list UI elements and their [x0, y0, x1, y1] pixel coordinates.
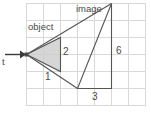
- label-source-point-t: t: [2, 57, 5, 67]
- geometry-figure: t object image 2 1 6 3: [0, 0, 151, 117]
- label-object-base-1: 1: [45, 72, 51, 82]
- t-arrow-icon: [5, 51, 26, 59]
- label-object-height-2: 2: [63, 47, 69, 57]
- figure-canvas: [0, 0, 151, 117]
- label-object: object: [28, 22, 53, 32]
- label-image: image: [76, 4, 102, 14]
- label-image-base-3: 3: [92, 92, 98, 102]
- light-rays: [27, 4, 112, 89]
- label-image-height-6: 6: [116, 46, 122, 56]
